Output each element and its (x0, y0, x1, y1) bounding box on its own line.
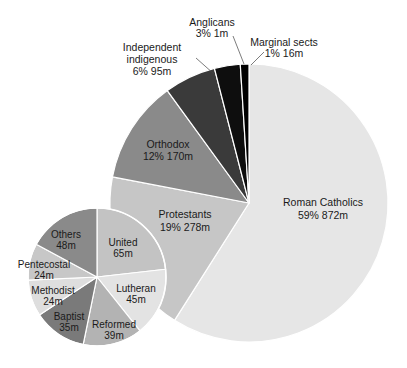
label-roman-catholics-stat: 59% 872m (298, 209, 348, 221)
leader-anglicans (233, 36, 244, 64)
leader-marginal (251, 52, 264, 65)
label-independent-2: indigenous (127, 53, 178, 65)
label-independent-stat: 6% 95m (133, 65, 172, 77)
label-lutheran: Lutheran (116, 283, 155, 294)
label-united: United (109, 237, 138, 248)
label-orthodox: Orthodox (146, 138, 190, 150)
label-independent-1: Independent (123, 41, 181, 53)
label-others: Others (51, 229, 81, 240)
label-methodist-val: 24m (43, 296, 62, 307)
label-pentecostal: Pentecostal (18, 259, 70, 270)
label-orthodox-stat: 12% 170m (143, 150, 193, 162)
label-marginal-stat: 1% 16m (265, 47, 304, 59)
label-protestants-stat: 19% 278m (160, 221, 210, 233)
label-anglicans-stat: 3% 1m (196, 27, 229, 39)
label-others-val: 48m (56, 240, 75, 251)
label-baptist-val: 35m (59, 322, 78, 333)
label-baptist: Baptist (54, 311, 85, 322)
label-pentecostal-val: 24m (34, 270, 53, 281)
label-roman-catholics: Roman Catholics (283, 196, 363, 208)
pie-chart-figure: Roman Catholics 59% 872m Protestants 19%… (0, 0, 407, 368)
label-lutheran-val: 45m (126, 294, 145, 305)
label-protestants: Protestants (158, 208, 211, 220)
label-reformed: Reformed (92, 319, 136, 330)
label-reformed-val: 39m (104, 330, 123, 341)
label-methodist: Methodist (31, 285, 75, 296)
label-united-val: 65m (113, 248, 132, 259)
